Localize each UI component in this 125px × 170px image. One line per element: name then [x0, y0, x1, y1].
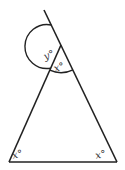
triangle-diagram: y° x° x° x° [0, 0, 125, 170]
apex-angle-label: x° [52, 60, 66, 74]
bottom-left-angle-label: x° [11, 148, 24, 161]
triangle-right-side-extended [44, 10, 117, 162]
exterior-angle-arc [25, 25, 52, 69]
bottom-right-angle-label: x° [94, 148, 107, 161]
